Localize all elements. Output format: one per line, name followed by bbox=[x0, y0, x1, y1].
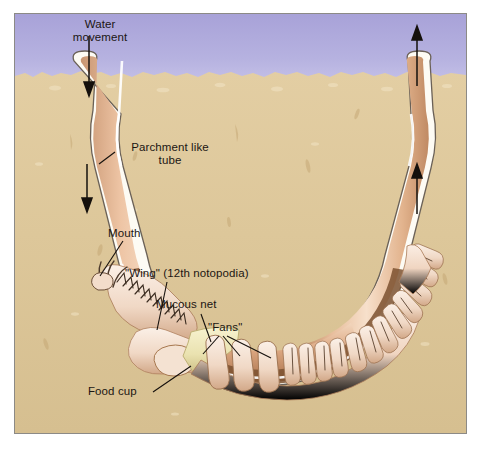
label-wing-notopodia: "Wing" (12th notopodia) bbox=[125, 267, 273, 280]
label-parchment-tube: Parchment like tube bbox=[118, 141, 222, 167]
mouth-opening bbox=[92, 273, 114, 291]
label-fans: "Fans" bbox=[208, 321, 258, 334]
fan-3 bbox=[258, 341, 279, 392]
label-mucous-net: Mucous net bbox=[156, 298, 248, 311]
label-food-cup: Food cup bbox=[88, 385, 162, 398]
figure-canvas: Water movement Parchment like tube Mouth… bbox=[0, 0, 484, 449]
label-water-movement: Water movement bbox=[61, 18, 139, 44]
label-mouth: Mouth bbox=[108, 227, 158, 240]
burrow-cross-section-illustration bbox=[15, 14, 466, 433]
illustration-plate: Water movement Parchment like tube Mouth… bbox=[14, 13, 467, 434]
